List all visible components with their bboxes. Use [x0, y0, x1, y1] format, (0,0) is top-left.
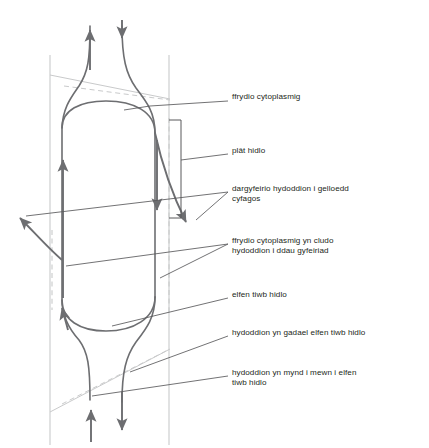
sieve-plate-bracket — [169, 120, 181, 218]
leader-dargyfeirio-right — [196, 192, 228, 220]
solute-diversion-left-arrow — [20, 218, 62, 260]
flow-arrow-group — [20, 20, 186, 442]
cell-wall-lower-angled — [50, 349, 170, 412]
cell-outline-bottom-cap — [62, 297, 155, 331]
leader-hydoddion-gadael — [130, 336, 228, 372]
leader-dargyfeirio-left — [26, 192, 228, 216]
leader-elfen-tiwb-hidlo — [112, 298, 228, 326]
bracket-path — [169, 120, 181, 218]
leader-line-group — [26, 101, 228, 396]
sieve-tube-diagram — [0, 0, 429, 448]
label-plat-hidlo: plât hidlo — [232, 146, 265, 156]
label-ffrydio-cytoplasmig: ffrydio cytoplasmig — [232, 92, 300, 102]
label-dargyfeirio-hydoddion-line1: dargyfeirio hydoddion i gelloedd — [232, 184, 349, 194]
label-dargyfeirio-hydoddion-line2: cyfagos — [232, 194, 260, 204]
label-hydoddion-mynd-i-mewn-line2: tiwb hidlo — [232, 378, 267, 388]
label-hydoddion-mynd-i-mewn-line1: hydoddion yn mynd i mewn i elfen — [232, 368, 357, 378]
figure-canvas: ffrydio cytoplasmig plât hidlo dargyfeir… — [0, 0, 429, 448]
label-ffrydio-dau-gyfeiriad-line1: ffrydio cytoplasmig yn cludo — [232, 236, 334, 246]
leader-ffrydio-dau-gyfeiriad-upper — [66, 244, 228, 266]
sieve-tube-element-outline — [62, 26, 155, 402]
label-ffrydio-dau-gyfeiriad-line2: hydoddion i ddau gyfeiriad — [232, 246, 329, 256]
label-elfen-tiwb-hidlo: elfen tiwb hidlo — [232, 290, 287, 300]
leader-plat-hidlo — [181, 154, 228, 160]
cell-outline-top-cap — [62, 101, 155, 133]
leader-ffrydio-dau-gyfeiriad-lower — [160, 244, 228, 278]
label-hydoddion-gadael: hydoddion yn gadael elfen tiwb hidlo — [232, 328, 365, 338]
